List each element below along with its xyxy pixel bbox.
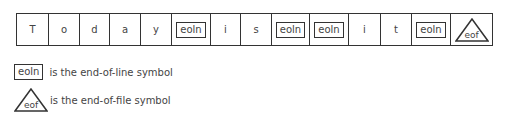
eof-symbol: eof [455,30,489,40]
char-cell: t [381,14,412,45]
char-cell: i [349,14,381,45]
char-text: i [224,24,227,35]
char-text: o [61,24,67,35]
char-cell: d [80,14,110,45]
char-text: a [122,24,128,35]
char-cell: a [110,14,141,45]
char-cell: o [49,14,80,45]
char-text: i [363,24,366,35]
eof-triangle-icon: eof [455,18,489,42]
char-cell: y [141,14,172,45]
eoln-cell: eoln [310,14,349,45]
legend-eof: eof is the end-of-file symbol [14,88,171,112]
legend-eoln: eoln is the end-of-line symbol [14,64,173,80]
eoln-symbol: eoln [314,22,343,38]
eoln-cell: eoln [172,14,211,45]
char-cell: s [241,14,272,45]
eoln-symbol: eoln [276,22,305,38]
eoln-symbol: eoln [416,22,445,38]
legend-eoln-label: is the end-of-line symbol [49,67,172,78]
file-character-sequence: T o d a y eoln i s eoln eoln i t eoln eo… [16,13,493,46]
char-text: d [91,24,97,35]
legend-eof-label: is the end-of-file symbol [50,95,171,106]
char-text: t [394,24,398,35]
char-text: T [29,24,35,35]
eoln-symbol: eoln [176,22,205,38]
eof-symbol: eof [14,100,48,110]
char-text: y [153,24,159,35]
eoln-cell: eoln [412,14,451,45]
eof-triangle-icon: eof [14,88,48,112]
char-text: s [253,24,258,35]
eof-cell: eof [451,14,493,45]
eoln-cell: eoln [272,14,310,45]
char-cell: T [17,14,49,45]
char-cell: i [211,14,241,45]
eoln-symbol: eoln [14,64,43,80]
